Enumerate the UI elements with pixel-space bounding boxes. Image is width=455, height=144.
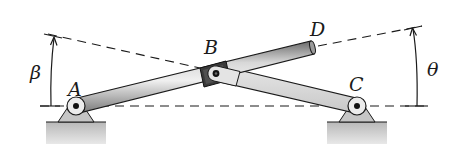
theta-arc <box>404 26 428 106</box>
label-c: C <box>349 75 364 94</box>
beta-arc <box>40 34 62 106</box>
label-a: A <box>68 80 82 99</box>
beta-line-dashed <box>48 34 200 68</box>
label-theta: θ <box>427 60 438 79</box>
ground-left <box>46 122 106 144</box>
ground-right <box>327 122 387 144</box>
rod-ad <box>73 40 316 113</box>
pivot-c <box>348 97 366 115</box>
diagram-canvas <box>0 0 455 144</box>
label-beta: β <box>30 63 41 82</box>
label-d: D <box>310 20 325 39</box>
linkage-diagram: A B C D β θ <box>0 0 455 144</box>
label-b: B <box>204 38 218 57</box>
